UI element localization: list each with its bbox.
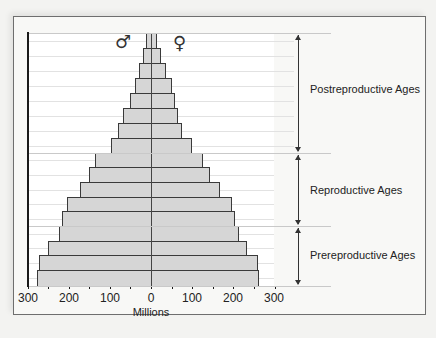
tick-label-female-200: 200: [223, 291, 243, 305]
male-symbol-icon: ♂: [115, 31, 131, 52]
arrow-down-icon: [295, 147, 301, 152]
male-bar: [39, 255, 152, 271]
male-bar: [95, 153, 152, 168]
tick-label-male-100: 100: [100, 291, 120, 305]
tick-label-male-300: 300: [18, 291, 38, 305]
tick-label-female-300: 300: [264, 291, 284, 305]
male-bar: [80, 182, 152, 198]
tick-label-male-200: 200: [59, 291, 79, 305]
tick-label-female-100: 100: [182, 291, 202, 305]
male-bar: [59, 226, 152, 242]
female-bar: [151, 153, 203, 168]
x-axis-label: Millions: [133, 306, 170, 318]
female-bar: [151, 197, 232, 212]
label-prereproductive: Prereproductive Ages: [310, 249, 415, 261]
female-bar: [151, 270, 259, 287]
tick-label-zero: 0: [148, 291, 155, 305]
arrow-down-icon: [295, 220, 301, 225]
gridline: [29, 41, 294, 42]
female-bar: [151, 241, 247, 256]
male-bar: [48, 241, 152, 256]
female-bar: [151, 211, 235, 227]
bracket-prereproductive: [298, 228, 299, 284]
female-bar: [151, 226, 239, 242]
female-bar: [151, 138, 192, 154]
male-bar: [67, 197, 152, 212]
male-bar: [89, 167, 152, 183]
male-bar: [135, 78, 152, 94]
zero-line: [151, 33, 152, 286]
female-bar: [151, 167, 210, 183]
arrow-down-icon: [295, 280, 301, 285]
female-bar: [151, 123, 182, 139]
female-bar: [151, 93, 175, 109]
section-line-top: [29, 33, 331, 34]
female-symbol-icon: ♀: [173, 32, 186, 53]
male-bar: [118, 123, 152, 139]
y-axis: [27, 32, 29, 287]
female-bar: [151, 108, 178, 124]
female-bar: [151, 255, 258, 271]
female-bar: [151, 78, 172, 94]
female-bar: [151, 48, 161, 64]
label-postreproductive: Postreproductive Ages: [310, 83, 420, 95]
male-bar: [37, 270, 152, 287]
male-bar: [111, 138, 152, 154]
male-bar: [139, 63, 152, 79]
section-line-repro-prerepro: [29, 226, 331, 227]
male-bar: [62, 211, 152, 227]
section-line-post-repro: [29, 153, 331, 154]
arrow-up-icon: [295, 35, 301, 40]
section-line-bottom: [29, 286, 331, 287]
arrow-up-icon: [295, 155, 301, 160]
female-bar: [151, 182, 220, 198]
male-bar: [123, 108, 152, 124]
female-bar: [151, 63, 166, 79]
male-bar: [130, 93, 152, 109]
bracket-postreproductive: [298, 35, 299, 151]
gridline: [29, 56, 294, 57]
label-reproductive: Reproductive Ages: [310, 184, 402, 196]
bracket-reproductive: [298, 155, 299, 224]
arrow-up-icon: [295, 228, 301, 233]
